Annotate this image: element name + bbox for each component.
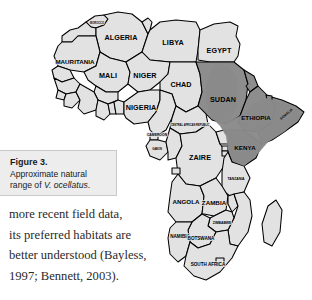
country-egypt (198, 22, 240, 62)
country-benin (114, 100, 124, 114)
label-car: CENTRAL AFRICAN REPUBLIC (171, 123, 210, 127)
country-cabinda (172, 168, 180, 174)
label-south-africa: SOUTH AFRICA (191, 262, 226, 267)
figure-caption-title: Figure 3. (10, 157, 109, 168)
caption-species-name: V. ocellatus (44, 180, 88, 190)
label-zimbabwe: ZIMBABWE (213, 221, 232, 225)
caption-line-2-suffix: . (88, 180, 90, 190)
body-line-4: 1997; Bennett, 2003). (9, 266, 175, 287)
body-line-2: its preferred habitats are (9, 225, 175, 246)
label-botswana: BOTSWANA (188, 236, 215, 241)
label-zambia: ZAMBIA (202, 199, 227, 206)
label-kenya: KENYA (234, 144, 256, 151)
label-tanzania: TANZANIA (227, 177, 245, 181)
figure-caption-text: Approximate natural range of V. ocellatu… (10, 169, 109, 191)
country-rwanda (222, 146, 228, 151)
figure-page: Map of Africa showing approximate natura… (0, 0, 312, 300)
label-sudan: SUDAN (210, 95, 236, 104)
label-niger: NIGER (133, 71, 157, 80)
label-cameroon: CAMEROON (147, 133, 168, 137)
body-paragraph: more recent field data, its preferred ha… (9, 204, 175, 286)
label-zaire: ZAIRE (189, 153, 211, 162)
label-nigeria: NIGERIA (126, 103, 157, 112)
label-gabon: GABON (152, 147, 162, 151)
figure-caption-box: Figure 3. Approximate natural range of V… (0, 150, 117, 196)
country-madagascar (262, 200, 282, 246)
body-line-1: more recent field data, (9, 204, 175, 225)
label-morocco: MOROCCO (90, 21, 104, 25)
label-ethiopia: ETHIOPIA (241, 114, 271, 121)
label-chad: CHAD (170, 80, 191, 89)
label-mauritania: MAURITANIA (55, 58, 95, 65)
label-algeria: ALGERIA (104, 33, 137, 42)
label-angola: ANGOLA (172, 198, 200, 205)
label-mali: MALI (99, 71, 117, 80)
caption-line-2-prefix: range of (10, 180, 44, 190)
label-egypt: EGYPT (207, 46, 232, 55)
caption-line-1: Approximate natural (10, 169, 87, 179)
body-line-3: better understood (Bayless, (9, 245, 175, 266)
label-libya: LIBYA (162, 38, 183, 47)
